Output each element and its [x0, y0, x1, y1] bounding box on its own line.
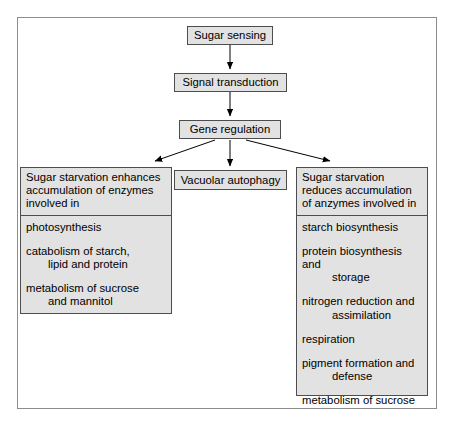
panel-right-item: pigment formation anddefense	[302, 357, 422, 383]
panel-left-item-label-continued: and mannitol	[26, 295, 166, 308]
node-vacuolar-autophagy: Vacuolar autophagy	[174, 170, 287, 190]
node-vacuolar-autophagy-label: Vacuolar autophagy	[181, 174, 281, 187]
panel-right-item-label-continued: defense	[302, 370, 422, 383]
panel-right-item-label: starch biosynthesis	[302, 221, 398, 233]
panel-left-item-label: photosynthesis	[26, 221, 101, 233]
panel-left-item-label: catabolism of starch,	[26, 245, 130, 257]
node-gene-regulation-label: Gene regulation	[190, 123, 270, 136]
panel-right-list: starch biosynthesisprotein biosynthesis …	[297, 216, 427, 414]
node-signal-transduction: Signal transduction	[174, 73, 287, 92]
panel-left-item: metabolism of sucroseand mannitol	[26, 282, 166, 308]
node-sugar-sensing-label: Sugar sensing	[194, 29, 266, 42]
panel-sugar-starvation-reduces: Sugar starvation reduces accumulation of…	[296, 167, 428, 396]
panel-right-item: starch biosynthesis	[302, 221, 422, 234]
panel-right-item: respiration	[302, 333, 422, 346]
panel-left-item-label-continued: lipid and protein	[26, 258, 166, 271]
diagram-canvas: Sugar sensing Signal transduction Gene r…	[0, 0, 452, 428]
panel-right-item: protein biosynthesis andstorage	[302, 245, 422, 285]
panel-left-header: Sugar starvation enhances accumulation o…	[21, 168, 171, 216]
panel-right-item-label: nitrogen reduction and	[302, 295, 414, 307]
node-sugar-sensing: Sugar sensing	[187, 26, 273, 45]
panel-left-item: photosynthesis	[26, 221, 166, 234]
panel-right-item-label-continued: storage	[302, 271, 422, 284]
panel-right-item-label: metabolism of sucrose	[302, 394, 415, 406]
panel-right-item-label-continued: assimilation	[302, 309, 422, 322]
panel-right-item-label: protein biosynthesis and	[302, 245, 402, 270]
panel-right-item: metabolism of sucrose	[302, 394, 422, 407]
panel-left-item-label: metabolism of sucrose	[26, 282, 139, 294]
panel-sugar-starvation-enhances: Sugar starvation enhances accumulation o…	[20, 167, 172, 314]
panel-right-item-label: pigment formation and	[302, 357, 414, 369]
panel-right-item-label: respiration	[302, 333, 355, 345]
panel-right-header: Sugar starvation reduces accumulation of…	[297, 168, 427, 216]
panel-left-item: catabolism of starch,lipid and protein	[26, 245, 166, 271]
node-signal-transduction-label: Signal transduction	[182, 76, 278, 89]
panel-left-list: photosynthesiscatabolism of starch,lipid…	[21, 216, 171, 315]
node-gene-regulation: Gene regulation	[179, 120, 281, 139]
panel-right-item: nitrogen reduction andassimilation	[302, 295, 422, 321]
